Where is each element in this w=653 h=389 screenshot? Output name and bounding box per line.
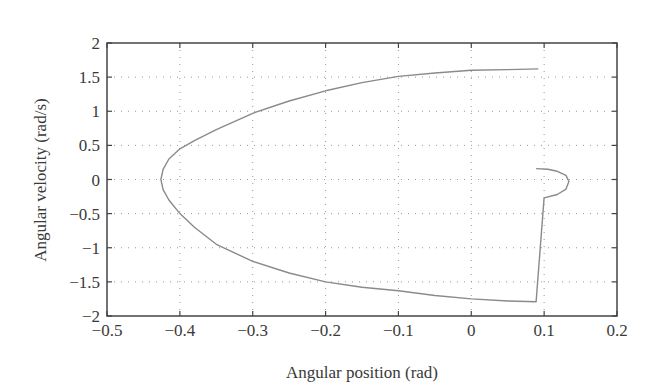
x-tick-labels: −0.5−0.4−0.3−0.2−0.100.10.2 [92, 321, 628, 340]
y-tick-label: 1 [92, 102, 101, 121]
x-tick-label: 0 [467, 321, 476, 340]
x-tick-label: 0.1 [534, 321, 555, 340]
y-tick-label: 0 [92, 171, 101, 190]
grid-lines [107, 43, 617, 316]
trajectory-line [161, 69, 569, 302]
y-axis-label: Angular velocity (rad/s) [31, 98, 50, 261]
y-tick-label: −1.5 [69, 273, 100, 292]
axis-ticks [107, 43, 617, 316]
y-tick-label: −0.5 [69, 205, 100, 224]
x-axis-label: Angular position (rad) [286, 363, 438, 382]
y-tick-label: −1 [82, 239, 100, 258]
x-tick-label: 0.2 [606, 321, 627, 340]
x-tick-label: −0.4 [164, 321, 195, 340]
y-tick-label: 2 [92, 34, 101, 53]
x-tick-label: −0.2 [310, 321, 341, 340]
x-tick-label: −0.1 [383, 321, 414, 340]
phase-plot: −0.5−0.4−0.3−0.2−0.100.10.2 21.510.50−0.… [0, 0, 653, 389]
x-tick-label: −0.3 [237, 321, 268, 340]
y-tick-label: 0.5 [79, 136, 100, 155]
y-tick-label: 1.5 [79, 68, 100, 87]
y-tick-label: −2 [82, 307, 100, 326]
y-tick-labels: 21.510.50−0.5−1−1.5−2 [69, 34, 100, 326]
plot-frame [107, 43, 617, 316]
